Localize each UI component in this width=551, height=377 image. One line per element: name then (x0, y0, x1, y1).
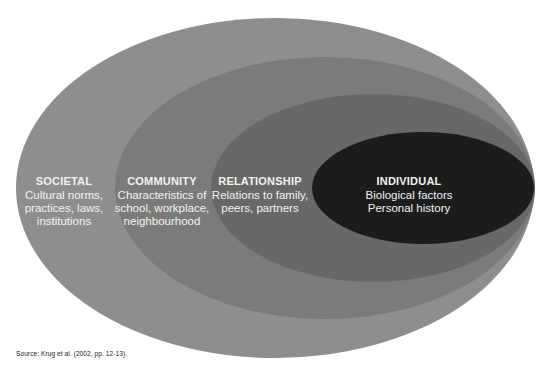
societal-desc-line-1: Cultural norms, (25, 189, 104, 202)
community-label: COMMUNITY Characteristics of school, wor… (115, 175, 210, 228)
societal-desc-line-2: practices, laws, (25, 202, 104, 215)
ecological-model-diagram: SOCIETAL Cultural norms, practices, laws… (0, 0, 551, 377)
relationship-desc-line-1: Relations to family, (212, 189, 308, 202)
relationship-title: RELATIONSHIP (212, 175, 308, 188)
individual-desc-line-1: Biological factors (366, 189, 453, 202)
community-desc-line-1: Characteristics of (115, 189, 210, 202)
societal-title: SOCIETAL (25, 175, 104, 188)
source-citation: Source: Krug et al. (2002, pp. 12-13). (16, 350, 127, 357)
individual-title: INDIVIDUAL (366, 175, 453, 188)
societal-desc-line-3: institutions (25, 215, 104, 228)
community-desc-line-3: neighbourhood (115, 215, 210, 228)
relationship-label: RELATIONSHIP Relations to family, peers,… (212, 175, 308, 215)
individual-desc-line-2: Personal history (366, 202, 453, 215)
societal-label: SOCIETAL Cultural norms, practices, laws… (25, 175, 104, 228)
relationship-desc-line-2: peers, partners (212, 202, 308, 215)
community-title: COMMUNITY (115, 175, 210, 188)
individual-label: INDIVIDUAL Biological factors Personal h… (366, 175, 453, 215)
community-desc-line-2: school, workplace, (115, 202, 210, 215)
